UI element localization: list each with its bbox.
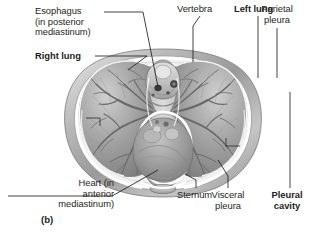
label-pleural-cavity: Pleural cavity	[272, 190, 303, 211]
heart	[133, 118, 193, 181]
label-right-lung: Right lung	[35, 51, 81, 62]
label-parietal-pleura: Parietal pleura	[261, 4, 292, 25]
label-sternum: Sternum	[177, 190, 212, 201]
label-heart: Heart (in anterior mediastinum)	[8, 178, 114, 210]
label-visceral-pleura: Visceral pleura	[212, 190, 245, 211]
thorax-illustration	[65, 49, 262, 197]
label-vertebra: Vertebra	[177, 4, 212, 15]
figure-part-label: (b)	[41, 214, 53, 225]
label-esophagus: Esophagus (in posterior mediastinum)	[35, 6, 91, 38]
